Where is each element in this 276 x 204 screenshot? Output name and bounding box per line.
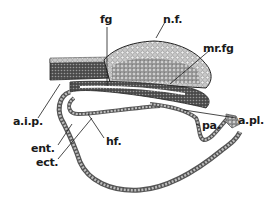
label-pa: pa. (202, 120, 221, 131)
label-entoderm: ent. (31, 143, 55, 154)
label-head-fold: hf. (106, 136, 121, 147)
label-aip: a.i.p. (13, 116, 43, 127)
label-neural-fold: n.f. (163, 14, 182, 25)
embryo-section-drawing (0, 0, 276, 204)
embryo-section-figure: fg n.f. mr.fg a.i.p. a.pl. pa. hf. ent. … (0, 0, 276, 204)
leader-hf (88, 114, 104, 138)
dorsal-surface-layer (50, 57, 112, 63)
leader-aip (38, 84, 60, 118)
label-ectoderm: ect. (36, 157, 58, 168)
label-foregut: fg (100, 14, 112, 25)
label-apl: a.pl. (238, 115, 264, 126)
label-mrfg: mr.fg (203, 43, 234, 54)
